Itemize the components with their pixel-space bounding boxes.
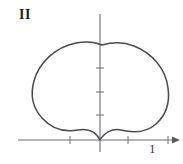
cardioid-figure-panel: II 1 (0, 0, 183, 164)
panel-label: II (19, 8, 31, 22)
plot-canvas (0, 0, 183, 164)
x-axis-tick-label-1: 1 (149, 142, 156, 155)
x-axis-arrowhead (172, 137, 180, 144)
